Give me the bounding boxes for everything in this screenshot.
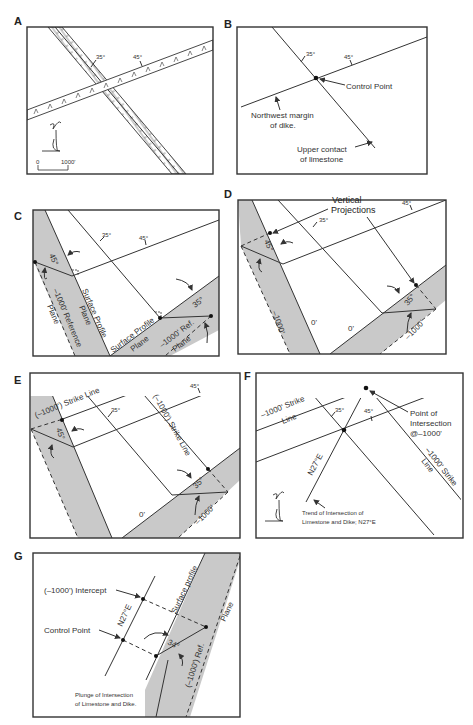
panel-label: C	[14, 210, 22, 222]
scale-bar: 0 1000'	[36, 159, 76, 170]
strike-point-marker	[60, 418, 64, 422]
panel-c: C 35° 45° 45° 35° Surface Profile Plane	[14, 210, 219, 356]
control-point-marker	[314, 76, 319, 81]
dike-dip-label: 45°	[139, 235, 149, 241]
dike-strike-line	[256, 373, 410, 431]
intercept-marker	[141, 597, 145, 601]
scale-end-label: 1000'	[61, 159, 76, 165]
panel-label: E	[14, 374, 21, 386]
point-marker	[154, 654, 158, 658]
dike-dip-label: 45°	[190, 383, 200, 389]
intercept-label: (–1000') Intercept	[44, 586, 107, 595]
panel-b: B 35° 45° Control Point Northwest margin…	[224, 18, 427, 174]
panel-label: A	[14, 15, 22, 27]
control-point-label: Control Point	[44, 626, 91, 635]
dike-dip-label: 45°	[364, 408, 374, 414]
projection-marker	[268, 231, 272, 235]
intersection-label-3: @–1000'	[410, 429, 442, 438]
trend-note-1: Trend of Intersection of	[302, 510, 364, 516]
intersection-label-1: Point of	[410, 409, 438, 418]
point-marker	[158, 316, 162, 320]
limestone-dip-label: 35°	[319, 217, 329, 223]
dike-dip-label: 45°	[402, 200, 412, 206]
right-zero-label: 0'	[348, 324, 354, 333]
north-arrow-icon	[265, 492, 284, 521]
limestone-dip-label: 35°	[96, 54, 106, 60]
plunge-note-2: of Limestone and Dike.	[75, 701, 137, 707]
trend-line	[105, 576, 155, 676]
trend-note-2: Limestone and Dike; N27°E	[302, 519, 376, 525]
panel-label: F	[244, 370, 251, 382]
control-point-marker	[121, 638, 125, 642]
north-arrow-icon	[42, 122, 61, 151]
right-strike-label: (–1000') Strike Line	[151, 393, 193, 458]
point-marker	[209, 314, 213, 318]
plunge-note-1: Plunge of Intersection	[75, 692, 133, 698]
limestone-contact-label-2: of limestone	[300, 155, 344, 164]
panel-g: G (–1000') Intercept Control Point N27°E…	[14, 550, 240, 717]
point-marker	[204, 625, 208, 629]
limestone-dip-label: 35°	[306, 51, 316, 57]
panel-d: D Vertical Projections 35° 45° 45° 35°	[224, 188, 446, 354]
panel-label: G	[14, 550, 23, 562]
vertical-projections-label-1: Vertical	[332, 195, 362, 205]
control-point-label: Control Point	[346, 82, 393, 91]
point-marker	[33, 260, 37, 264]
left-strike-label-2: Line	[280, 412, 298, 426]
vertical-projections-label-2: Projections	[331, 205, 376, 215]
limestone-contact-label-1: Upper contact	[297, 145, 348, 154]
panel-a: A 35° 45° 0 1000'	[14, 15, 213, 174]
projection-marker	[414, 283, 418, 287]
control-point-marker	[342, 428, 347, 433]
panel-label: D	[224, 188, 232, 200]
zero-label: 0'	[139, 510, 145, 519]
panel-label: B	[224, 18, 232, 30]
trend-label: N27°E	[306, 452, 325, 477]
panel-f: F –1000' Strike Line 35° 45° Point of In…	[244, 370, 465, 538]
scale-start-label: 0	[36, 159, 40, 165]
limestone-dip-label: 35°	[102, 232, 112, 238]
limestone-dip-label: 35°	[335, 407, 345, 413]
dike-margin-label-2: of dike.	[270, 121, 296, 130]
figure-canvas: A 35° 45° 0 1000' B 35°	[0, 0, 473, 725]
panel-e: E (–1000') Strike Line (–1000') Strike L…	[14, 353, 240, 538]
left-zero-label: 0'	[311, 318, 317, 327]
dike-dip-label: 45°	[133, 54, 143, 60]
dike-margin-line	[241, 37, 427, 107]
intersection-marker	[364, 386, 369, 391]
limestone-dip-label: 35°	[111, 407, 121, 413]
dike-margin-label-1: Northwest margin	[251, 111, 314, 120]
dike-dip-label: 45°	[344, 54, 354, 60]
trend-line	[306, 388, 366, 502]
strike-point-marker	[206, 467, 210, 471]
intersection-label-2: Intersection	[410, 419, 451, 428]
